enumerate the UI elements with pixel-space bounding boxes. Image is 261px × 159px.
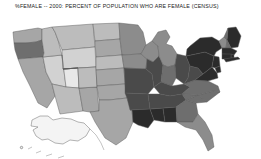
state-ne[interactable] <box>96 55 124 70</box>
page-title: %FEMALE -- 2000: PERCENT OF POPULATION W… <box>15 3 255 9</box>
us-states-map <box>0 10 261 159</box>
state-or[interactable] <box>14 40 44 59</box>
state-az[interactable] <box>52 84 83 114</box>
state-ak[interactable] <box>31 116 90 144</box>
state-hi[interactable] <box>20 146 23 149</box>
state-wy[interactable] <box>62 47 96 69</box>
state-nd[interactable] <box>93 23 120 41</box>
state-ok[interactable] <box>97 84 127 100</box>
choropleth-map <box>0 10 261 159</box>
state-wa[interactable] <box>13 28 42 43</box>
state-mn[interactable] <box>119 23 146 55</box>
state-la[interactable] <box>130 109 154 128</box>
alaska-aleutian-islands <box>28 147 64 158</box>
state-sd[interactable] <box>95 39 122 57</box>
state-al[interactable] <box>163 107 177 122</box>
state-ia[interactable] <box>122 54 147 69</box>
map-figure-page: %FEMALE -- 2000: PERCENT OF POPULATION W… <box>0 0 261 159</box>
state-ks[interactable] <box>96 68 125 86</box>
